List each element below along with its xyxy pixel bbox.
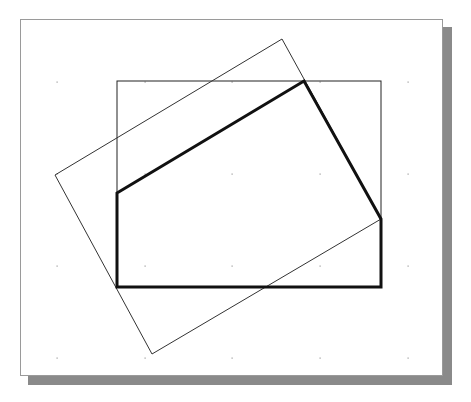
grid-dot — [57, 358, 58, 359]
grid-dot — [408, 358, 409, 359]
grid-dot — [57, 266, 58, 267]
clipped-intersection-polygon — [117, 81, 381, 287]
grid-dot — [408, 82, 409, 83]
rotated-rectangle — [55, 39, 381, 354]
grid-dot — [232, 266, 233, 267]
grid-dot — [232, 174, 233, 175]
grid-dot — [232, 82, 233, 83]
grid-dot — [145, 358, 146, 359]
grid-dot — [232, 358, 233, 359]
grid-dot — [320, 266, 321, 267]
diagram-stage — [0, 0, 471, 402]
clip-window-rectangle — [117, 81, 381, 287]
grid-dot — [145, 82, 146, 83]
grid-dot — [320, 358, 321, 359]
grid-dot — [320, 174, 321, 175]
grid-dot — [57, 82, 58, 83]
grid-dot — [320, 82, 321, 83]
grid-dot — [408, 266, 409, 267]
diagram-canvas — [0, 0, 471, 402]
grid-dot — [145, 266, 146, 267]
grid-dot — [408, 174, 409, 175]
